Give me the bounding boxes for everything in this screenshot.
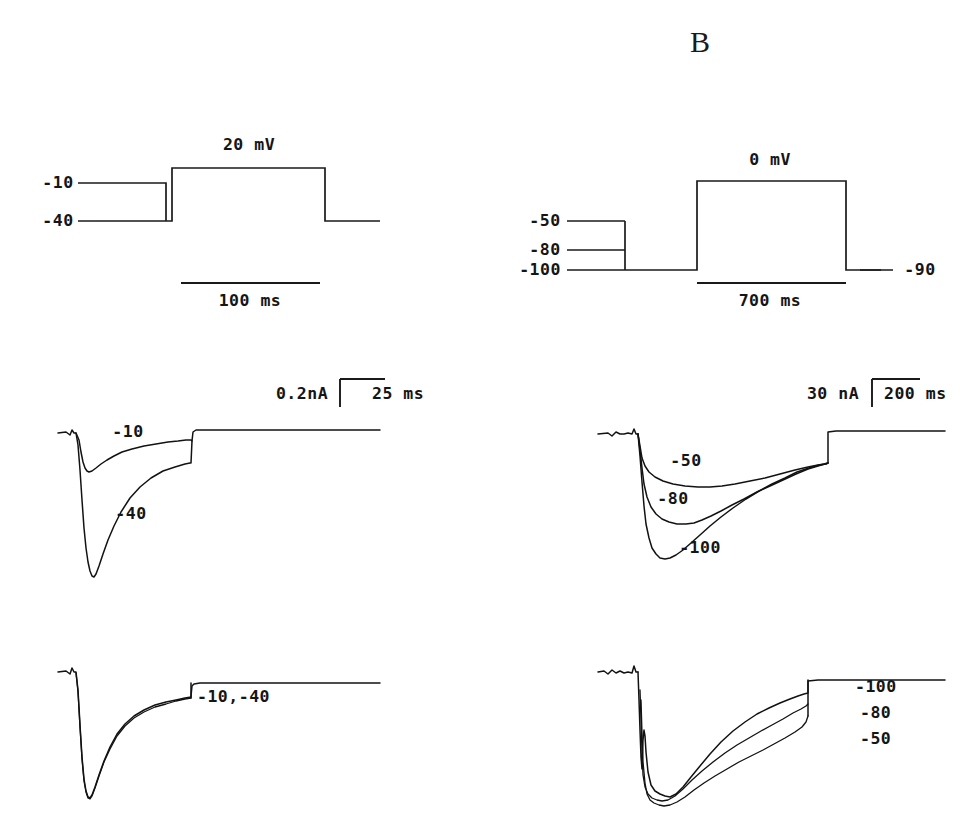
left-bottom-label-combined: -10,-40 — [197, 687, 270, 706]
right-test-pulse-label: 0 mV — [749, 150, 791, 169]
right-voltage-protocol: 0 mV -50 -80 -100 -90 700 ms — [519, 150, 936, 310]
left-duration-label: 100 ms — [219, 291, 282, 310]
left-middle-traces: -10 -40 — [58, 422, 380, 577]
right-middle-traces: -50 -80 -100 — [598, 429, 945, 559]
electrophysiology-figure: B 20 mV -10 -40 100 ms 0.2nA 25 ms -10 -… — [0, 0, 969, 831]
right-middle-label-minus50: -50 — [670, 451, 701, 470]
left-scale-bar: 0.2nA 25 ms — [276, 379, 424, 407]
left-scalebar-time-label: 25 ms — [372, 384, 424, 403]
right-scale-bar: 30 nA 200 ms — [807, 379, 947, 407]
right-prepulse-label-minus50: -50 — [529, 211, 560, 230]
left-scalebar-current-label: 0.2nA — [276, 384, 328, 403]
left-protocol-command-step — [97, 168, 380, 221]
right-trace-minus80 — [638, 434, 828, 524]
right-bottom-label-minus50: -50 — [860, 729, 891, 748]
left-middle-label-minus10: -10 — [112, 422, 143, 441]
left-test-pulse-label: 20 mV — [223, 135, 275, 154]
right-bottom-label-minus80: -80 — [860, 703, 891, 722]
figure-canvas: B 20 mV -10 -40 100 ms 0.2nA 25 ms -10 -… — [0, 0, 969, 831]
right-bottom-baseline-pre — [598, 666, 638, 674]
right-bottom-traces: -100 -80 -50 — [598, 666, 945, 806]
right-prepulse-label-minus100: -100 — [519, 260, 561, 279]
right-duration-label: 700 ms — [739, 291, 802, 310]
right-protocol-command-step — [625, 181, 893, 270]
right-middle-label-minus100: -100 — [679, 538, 721, 557]
left-trace-minus10 — [58, 430, 380, 472]
left-bottom-trace-b — [76, 673, 191, 799]
right-scalebar-current-label: 30 nA — [807, 384, 859, 403]
right-bottom-label-minus100: -100 — [855, 677, 897, 696]
right-middle-label-minus80: -80 — [657, 489, 688, 508]
right-baseline-pre — [598, 429, 638, 436]
left-protocol-prepulse-upper — [97, 183, 166, 221]
right-bottom-trace-minus80 — [640, 690, 808, 801]
left-middle-label-minus40: -40 — [115, 504, 146, 523]
left-prepulse-label-minus40: -40 — [42, 211, 73, 230]
right-tail-label-minus90: -90 — [904, 260, 935, 279]
panel-letter-b: B — [690, 25, 710, 58]
left-bottom-traces: -10,-40 — [58, 668, 380, 799]
left-voltage-protocol: 20 mV -10 -40 100 ms — [42, 135, 380, 310]
right-scalebar-time-label: 200 ms — [884, 384, 947, 403]
right-prepulse-label-minus80: -80 — [529, 240, 560, 259]
left-prepulse-label-minus10: -10 — [42, 173, 73, 192]
